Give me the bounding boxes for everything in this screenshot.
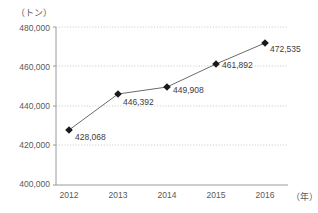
data-point-marker [65,126,73,134]
data-point-label: 428,068 [75,132,106,142]
line-chart: （トン） （年） 480,000 460,000 440,000 420,000… [0,0,318,213]
plot-area [0,0,318,213]
data-point-label: 449,908 [173,85,204,95]
data-point-label: 461,892 [222,60,253,70]
data-point-label: 472,535 [270,44,301,54]
gridlines [56,27,288,145]
data-point-marker [212,60,220,68]
data-point-marker [163,83,171,91]
data-point-marker [114,90,122,98]
data-point-marker [261,39,269,47]
data-point-label: 446,392 [123,97,154,107]
data-markers [65,39,269,134]
